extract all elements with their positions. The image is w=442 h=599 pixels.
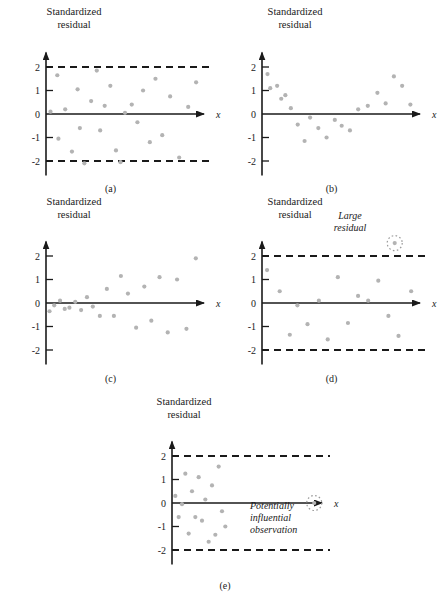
residual-plot-c: x210-1-2	[0, 190, 221, 375]
panel-b: Standardized residual x210-1-2 (b)	[221, 0, 442, 200]
caption-d: (d)	[221, 373, 442, 384]
svg-text:0: 0	[35, 298, 40, 309]
svg-text:2: 2	[251, 251, 256, 262]
svg-text:1: 1	[35, 85, 40, 96]
panel-c: Standardized residual x210-1-2 (c)	[0, 190, 221, 390]
svg-text:-2: -2	[248, 156, 256, 167]
residual-plot-a: x210-1-2	[0, 0, 221, 185]
svg-text:-2: -2	[158, 545, 166, 556]
residual-plot-e: x210-1-2	[110, 390, 340, 585]
panel-a: Standardized residual x210-1-2 (a)	[0, 0, 221, 200]
caption-c: (c)	[0, 373, 221, 384]
svg-text:1: 1	[251, 274, 256, 285]
svg-text:-1: -1	[32, 132, 40, 143]
svg-text:1: 1	[35, 274, 40, 285]
residual-plot-b: x210-1-2	[221, 0, 442, 185]
svg-text:-1: -1	[32, 321, 40, 332]
svg-text:-1: -1	[158, 521, 166, 532]
svg-text:1: 1	[251, 85, 256, 96]
svg-text:-2: -2	[32, 345, 40, 356]
influential-observation-annotation: Potentially influential observation	[250, 500, 346, 536]
svg-text:2: 2	[35, 251, 40, 262]
svg-text:-2: -2	[248, 345, 256, 356]
svg-text:-1: -1	[248, 132, 256, 143]
svg-text:0: 0	[35, 109, 40, 120]
svg-text:0: 0	[251, 109, 256, 120]
svg-text:-1: -1	[248, 321, 256, 332]
svg-text:x: x	[431, 109, 437, 120]
svg-text:2: 2	[161, 451, 166, 462]
svg-text:0: 0	[161, 498, 166, 509]
panel-e: Standardized residual x210-1-2 Potential…	[110, 390, 340, 599]
svg-text:0: 0	[251, 298, 256, 309]
caption-e: (e)	[110, 580, 340, 591]
svg-text:1: 1	[161, 474, 166, 485]
svg-text:2: 2	[251, 62, 256, 73]
svg-text:x: x	[431, 298, 437, 309]
svg-text:2: 2	[35, 62, 40, 73]
panel-d: Standardized residual x210-1-2 Large res…	[221, 190, 442, 390]
svg-text:-2: -2	[32, 156, 40, 167]
large-residual-annotation: Large residual	[319, 210, 381, 234]
